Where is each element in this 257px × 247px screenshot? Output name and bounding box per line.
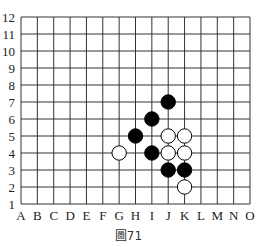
column-label: C [49, 208, 58, 223]
row-label: 11 [2, 27, 15, 42]
row-label: 5 [9, 129, 16, 144]
column-label: O [245, 208, 254, 223]
black-stone [161, 95, 175, 109]
column-label: E [82, 208, 90, 223]
column-label: D [65, 208, 74, 223]
column-label: A [16, 208, 26, 223]
white-stone [161, 129, 175, 143]
column-label: G [114, 208, 123, 223]
black-stone [177, 163, 191, 177]
row-label: 6 [9, 112, 16, 127]
row-label: 2 [9, 180, 16, 195]
row-label: 7 [9, 95, 16, 110]
column-label: B [33, 208, 42, 223]
white-stone [112, 146, 126, 160]
figure-caption: 圖71 [0, 226, 257, 243]
black-stone [161, 163, 175, 177]
row-label: 9 [9, 61, 16, 76]
white-stone [161, 146, 175, 160]
white-stone [177, 146, 191, 160]
row-label: 8 [9, 78, 16, 93]
column-label: H [131, 208, 140, 223]
row-label: 1 [9, 197, 16, 212]
column-label: I [150, 208, 154, 223]
column-label: L [197, 208, 205, 223]
row-label: 3 [9, 163, 16, 178]
black-stone [145, 146, 159, 160]
row-label: 4 [9, 146, 16, 161]
column-label: K [180, 208, 190, 223]
black-stone [128, 129, 142, 143]
row-label: 12 [2, 10, 15, 25]
column-label: N [229, 208, 239, 223]
column-label: J [166, 208, 171, 223]
white-stone [177, 129, 191, 143]
column-label: F [99, 208, 106, 223]
white-stone [177, 180, 191, 194]
column-label: M [212, 208, 224, 223]
row-label: 10 [2, 44, 15, 59]
black-stone [145, 112, 159, 126]
gomoku-board: ABCDEFGHIJKLMNO123456789101112 [0, 0, 257, 247]
